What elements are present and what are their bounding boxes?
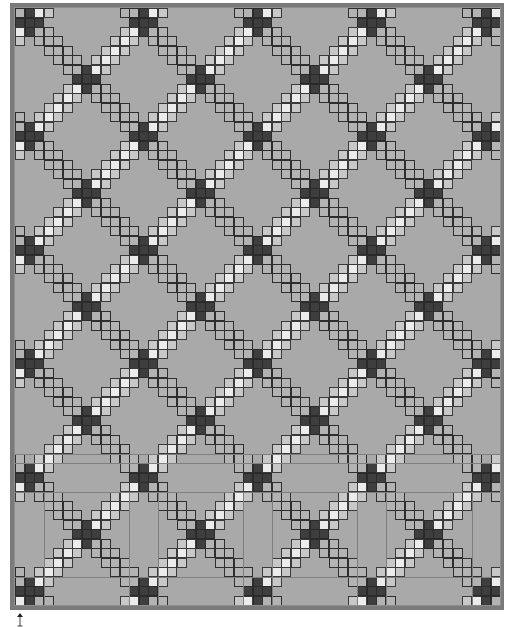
quilt-cell <box>462 273 472 283</box>
quilt-cell <box>101 406 111 416</box>
quilt-canvas[interactable] <box>15 8 500 605</box>
quilt-cell <box>405 558 415 568</box>
quilt-cell <box>472 378 482 388</box>
quilt-cell <box>53 112 63 122</box>
quilt-cell <box>272 236 282 246</box>
quilt-cell <box>357 378 367 388</box>
quilt-cell <box>44 577 54 587</box>
quilt-cell <box>234 46 244 56</box>
quilt-cell <box>243 492 253 502</box>
quilt-cell <box>148 264 158 274</box>
quilt-cell <box>44 349 54 359</box>
quilt-cell <box>348 160 358 170</box>
quilt-cell <box>338 55 348 65</box>
quilt-cell <box>15 36 25 46</box>
quilt-cell <box>224 55 234 65</box>
quilt-cell <box>414 548 424 558</box>
quilt-cell <box>491 36 501 46</box>
quilt-cell <box>491 596 501 605</box>
quilt-cell <box>443 292 453 302</box>
quilt-cell <box>443 103 453 113</box>
quilt-cell <box>224 169 234 179</box>
quilt-cell <box>63 292 73 302</box>
quilt-cell <box>300 321 310 331</box>
quilt-cell <box>148 492 158 502</box>
quilt-cell <box>72 321 82 331</box>
quilt-cell <box>329 179 339 189</box>
quilt-cell <box>53 340 63 350</box>
quilt-cell <box>329 520 339 530</box>
quilt-cell <box>63 103 73 113</box>
block-outline-line <box>272 492 273 606</box>
quilt-cell <box>158 236 168 246</box>
quilt-cell <box>348 596 358 605</box>
quilt-cell <box>110 55 120 65</box>
quilt-cell <box>63 558 73 568</box>
quilt-cell <box>453 397 463 407</box>
quilt-cell <box>120 387 130 397</box>
quilt-cell <box>148 596 158 605</box>
quilt-cell <box>443 558 453 568</box>
quilt-cell <box>215 520 225 530</box>
quilt-cell <box>281 226 291 236</box>
quilt-cell <box>158 463 168 473</box>
quilt-cell <box>357 150 367 160</box>
block-outline-line <box>15 492 500 493</box>
quilt-cell <box>472 492 482 502</box>
quilt-cell <box>291 330 301 340</box>
quilt-cell <box>405 330 415 340</box>
quilt-cell <box>443 217 453 227</box>
quilt-cell <box>272 349 282 359</box>
anchor-arrow-icon[interactable] <box>16 613 24 627</box>
quilt-cell <box>395 112 405 122</box>
quilt-cell <box>224 397 234 407</box>
quilt-cell <box>405 217 415 227</box>
quilt-cell <box>158 596 168 605</box>
block-outline-line <box>15 454 500 455</box>
quilt-cell <box>348 273 358 283</box>
quilt-cell <box>129 150 139 160</box>
quilt-cell <box>281 112 291 122</box>
quilt-cell <box>386 349 396 359</box>
quilt-cell <box>472 36 482 46</box>
quilt-cell <box>462 160 472 170</box>
quilt-cell <box>215 406 225 416</box>
quilt-cell <box>63 65 73 75</box>
quilt-cell <box>234 273 244 283</box>
quilt-cell <box>348 387 358 397</box>
quilt-cell <box>158 577 168 587</box>
quilt-cell <box>120 46 130 56</box>
quilt-cell <box>215 65 225 75</box>
quilt-cell <box>120 273 130 283</box>
quilt-cell <box>462 387 472 397</box>
quilt-cell <box>443 179 453 189</box>
quilt-cell <box>357 264 367 274</box>
quilt-cell <box>348 501 358 511</box>
quilt-cell <box>110 510 120 520</box>
quilt-cell <box>44 463 54 473</box>
quilt-cell <box>177 217 187 227</box>
quilt-cell <box>348 122 358 132</box>
block-outline-line <box>472 492 473 606</box>
quilt-cell <box>348 8 358 18</box>
quilt-cell <box>129 492 139 502</box>
quilt-cell <box>158 122 168 132</box>
quilt-cell <box>272 463 282 473</box>
quilt-cell <box>15 264 25 274</box>
block-outline-line <box>386 492 387 606</box>
quilt-cell <box>453 510 463 520</box>
quilt-cell <box>177 558 187 568</box>
quilt-cell <box>338 169 348 179</box>
quilt-cell <box>291 558 301 568</box>
block-outline-line <box>15 577 500 578</box>
block-outline-line <box>15 463 500 464</box>
quilt-cell <box>148 36 158 46</box>
quilt-cell <box>186 435 196 445</box>
block-outline-line <box>129 492 130 606</box>
quilt-cell <box>272 122 282 132</box>
quilt-cell <box>453 55 463 65</box>
quilt-cell <box>44 236 54 246</box>
quilt-cell <box>72 548 82 558</box>
quilt-cell <box>291 103 301 113</box>
quilt-cell <box>101 65 111 75</box>
